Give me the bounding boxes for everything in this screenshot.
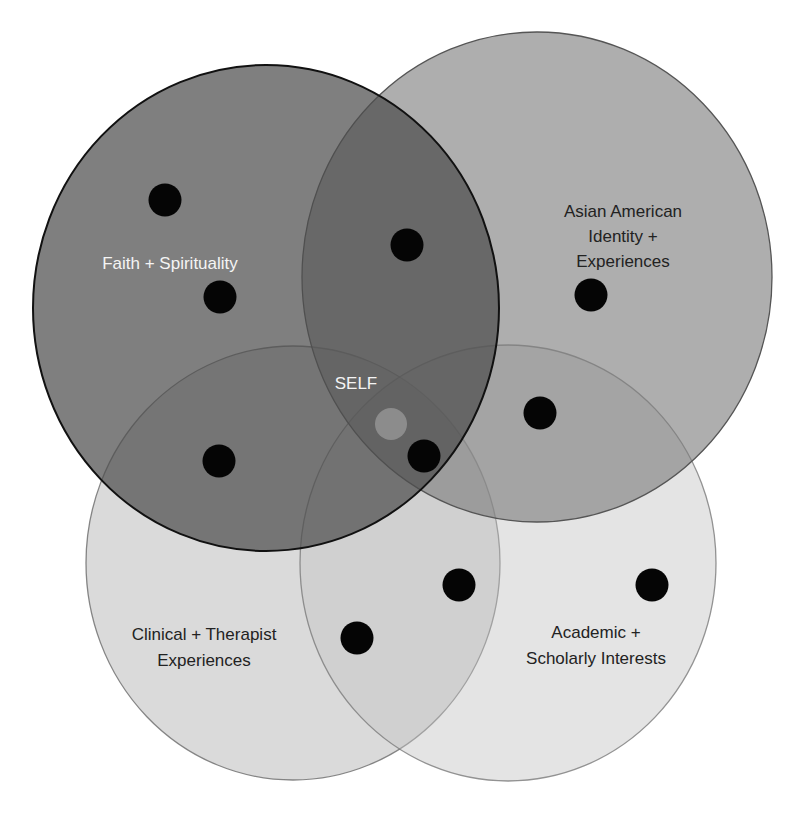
self-marker — [375, 408, 407, 440]
dot-clinical-academic-2 — [341, 622, 374, 655]
dot-faith-asian — [391, 229, 424, 262]
dot-faith-1 — [149, 184, 182, 217]
dot-asian-academic — [524, 397, 557, 430]
label-asian-line-1: Asian American — [564, 202, 682, 221]
dot-center — [408, 440, 441, 473]
dot-faith-2 — [204, 281, 237, 314]
dot-clinical-academic-1 — [443, 569, 476, 602]
dot-academic — [636, 569, 669, 602]
dot-faith-clinical — [203, 445, 236, 478]
dot-asian — [575, 279, 608, 312]
label-asian-line-2: Identity + — [588, 227, 658, 246]
label-self: SELF — [335, 374, 378, 393]
label-academic-line-2: Scholarly Interests — [526, 649, 666, 668]
venn-diagram: Faith + Spirituality Asian American Iden… — [0, 0, 795, 815]
set-circles — [33, 32, 772, 781]
label-academic-line-1: Academic + — [551, 623, 640, 642]
label-asian-line-3: Experiences — [576, 252, 670, 271]
label-clinical-line-1: Clinical + Therapist — [132, 625, 277, 644]
circle-faith — [33, 65, 499, 551]
label-faith: Faith + Spirituality — [102, 254, 238, 273]
label-clinical-line-2: Experiences — [157, 651, 251, 670]
